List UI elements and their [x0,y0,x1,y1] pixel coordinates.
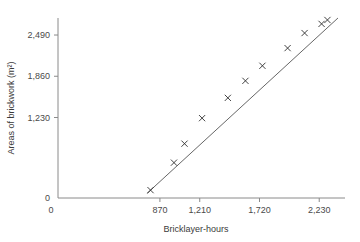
x-tick-label: 0 [48,205,53,215]
data-point [318,21,324,27]
axes [58,18,345,198]
x-axis-title: Bricklayer-hours [163,224,229,234]
y-tick-label: 1,860 [27,71,50,81]
data-point [259,63,265,69]
trend-line [147,18,338,193]
y-axis-title: Areas of brickwork (m²) [6,61,16,154]
data-point [285,45,291,51]
x-tick-label: 1,720 [248,205,271,215]
y-axis-ticks: 01,2301,8602,490 [27,30,58,203]
data-point [199,115,205,121]
data-point [324,17,330,23]
x-tick-label: 1,210 [188,205,211,215]
data-point [181,141,187,147]
x-axis-ticks: 08701,2101,7202,230 [48,198,330,215]
x-tick-label: 870 [152,205,167,215]
scatter-plot: 01,2301,8602,490 08701,2101,7202,230 Bri… [0,0,360,242]
data-point [242,78,248,84]
y-tick-label: 0 [45,193,50,203]
chart-figure: 01,2301,8602,490 08701,2101,7202,230 Bri… [0,0,360,242]
data-point [301,30,307,36]
data-point-markers [147,17,330,193]
data-point [225,95,231,101]
data-point [147,187,153,193]
y-tick-label: 1,230 [27,113,50,123]
y-tick-label: 2,490 [27,30,50,40]
x-tick-label: 2,230 [308,205,331,215]
data-point [171,160,177,166]
